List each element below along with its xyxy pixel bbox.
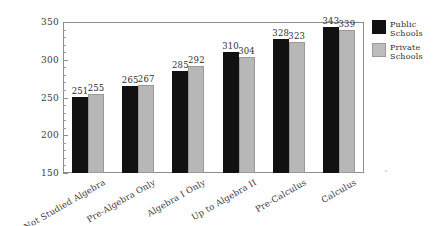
bar-value-label: 292 [185, 55, 207, 65]
legend-label: PublicSchools [390, 20, 423, 38]
bar-private [289, 42, 305, 173]
y-tick-label: 250 [41, 93, 59, 103]
bar-public [223, 52, 239, 173]
y-tick-label: 150 [41, 168, 59, 178]
legend-label-line1: Private [390, 43, 423, 52]
y-tick-major [63, 173, 68, 174]
bar-private [239, 57, 255, 173]
legend-swatch-private [372, 43, 386, 57]
legend-label-line1: Public [390, 20, 423, 29]
bar-value-label: 339 [336, 19, 358, 29]
bar-private [88, 94, 104, 173]
bar-public [323, 27, 339, 173]
y-axis-tick-labels: 150200250300350 [34, 22, 59, 173]
bar-private [138, 85, 154, 173]
x-tick-label: Calculus [319, 177, 358, 205]
bar-public [172, 71, 188, 173]
y-tick-label: 300 [41, 55, 59, 65]
bar-value-label: 304 [236, 46, 258, 56]
bar-public [273, 39, 289, 173]
plot-area: 251255265267285292310304328323343339 [63, 22, 364, 173]
legend-label-line2: Schools [390, 29, 423, 38]
bar-public [122, 86, 138, 173]
bar-value-label: 255 [85, 83, 107, 93]
bar-value-label: 267 [135, 74, 157, 84]
x-tick-label: Pre-Calculus [253, 177, 308, 214]
legend-swatch-public [372, 20, 386, 34]
bar-private [339, 30, 355, 173]
stray-mark [385, 170, 387, 172]
y-tick-label: 200 [41, 130, 59, 140]
legend-item: PrivateSchools [372, 43, 434, 61]
bar-private [188, 66, 204, 173]
bar-public [72, 97, 88, 173]
legend-label: PrivateSchools [390, 43, 423, 61]
legend-label-line2: Schools [390, 52, 423, 61]
chart-legend: PublicSchoolsPrivateSchools [372, 20, 434, 66]
bar-chart-figure: 150200250300350 251255265267285292310304… [0, 0, 435, 226]
bar-value-label: 323 [286, 31, 308, 41]
y-tick-label: 350 [41, 17, 59, 27]
legend-item: PublicSchools [372, 20, 434, 38]
